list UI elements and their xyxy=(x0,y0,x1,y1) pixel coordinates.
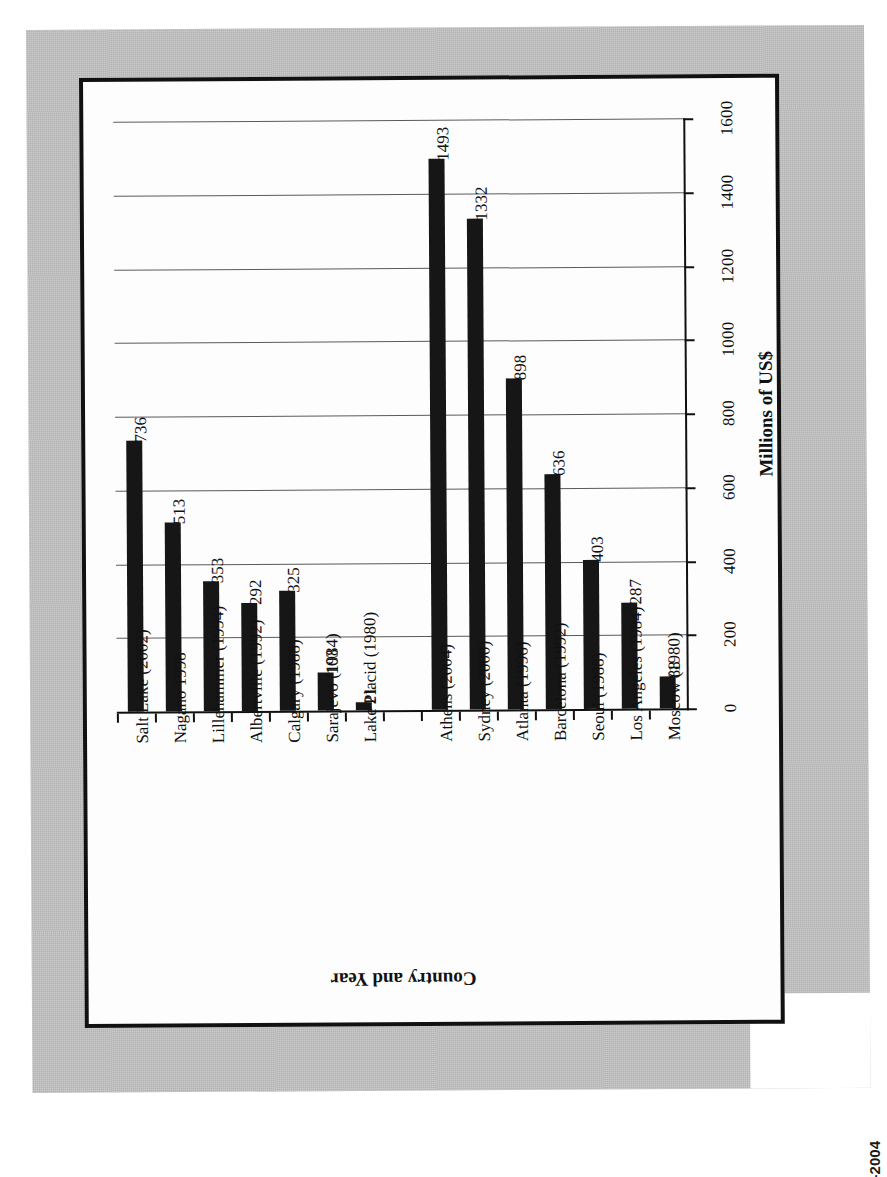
gridline xyxy=(116,635,686,639)
bar-value-label: 898 xyxy=(511,355,531,381)
bar-value-label: 403 xyxy=(588,537,608,563)
category-tick-mark xyxy=(611,711,613,720)
bar-value-label: 1493 xyxy=(433,127,453,161)
gridline xyxy=(113,118,683,122)
category-label: Atlanta (1996) xyxy=(512,642,533,742)
category-tick-mark xyxy=(307,713,309,722)
gridline xyxy=(115,340,685,344)
bar-chart-plot: 02004006008001000120014001600 7365133532… xyxy=(83,78,781,1024)
category-label: Calgary (1988) xyxy=(284,639,305,743)
category-label: Sarajevo (1984) xyxy=(322,633,343,742)
category-label: Athens (2004) xyxy=(436,644,457,742)
bars-group: 7365133532923251032114931332898636403287… xyxy=(83,78,775,82)
bar-value-label: 736 xyxy=(131,417,151,443)
value-tick-label: 1000 xyxy=(718,317,738,361)
category-tick-mark xyxy=(155,714,157,723)
category-tick-mark xyxy=(421,712,423,721)
value-axis-title: Millions of US$ xyxy=(755,329,778,499)
gridline xyxy=(115,413,685,417)
bar xyxy=(466,218,486,709)
value-tick-label: 0 xyxy=(721,686,741,730)
category-label: Lillehammer (1994) xyxy=(208,606,229,743)
gridline xyxy=(114,266,684,270)
gridline xyxy=(116,487,686,491)
category-tick-mark xyxy=(573,711,575,720)
category-label: Moscow (1980) xyxy=(664,632,685,740)
value-tick-label: 1600 xyxy=(717,96,737,140)
category-tick-mark xyxy=(383,712,385,721)
category-tick-mark xyxy=(497,711,499,720)
category-tick-mark xyxy=(649,711,651,720)
category-tick-mark xyxy=(269,713,271,722)
value-tick-label: 600 xyxy=(719,465,739,509)
category-tick-mark xyxy=(535,711,537,720)
category-tick-mark xyxy=(345,712,347,721)
category-tick-mark xyxy=(231,713,233,722)
bar xyxy=(428,159,448,710)
gridline xyxy=(114,192,684,196)
value-tick-label: 200 xyxy=(720,612,740,656)
category-label: Albertville (1992) xyxy=(246,620,267,743)
category-tick-mark xyxy=(117,714,119,723)
category-label: Lake Placid (1980) xyxy=(360,612,381,742)
bar-value-label: 287 xyxy=(626,579,646,605)
category-label: Seoul (1988) xyxy=(589,652,610,740)
chart-panel: 02004006008001000120014001600 7365133532… xyxy=(79,74,785,1028)
category-label: Nagano 1998 xyxy=(171,652,192,743)
bar-value-label: 636 xyxy=(549,451,569,477)
value-tick-label: 1200 xyxy=(718,243,738,287)
category-tick-mark xyxy=(459,712,461,721)
category-label: Salt Lake (2002) xyxy=(132,629,153,743)
bar-value-label: 353 xyxy=(208,557,228,583)
value-tick-label: 800 xyxy=(719,391,739,435)
category-label: Los Angeles (1984) xyxy=(626,606,647,740)
bar-value-label: 292 xyxy=(246,580,266,606)
category-axis-title: Country and Year xyxy=(313,967,493,990)
category-label: Sydney (2000) xyxy=(474,641,495,742)
value-axis-ticks: 02004006008001000120014001600 xyxy=(83,78,775,82)
bar-value-label: 325 xyxy=(284,567,304,593)
bar-value-label: 1332 xyxy=(472,186,492,220)
category-labels-group: Salt Lake (2002)Nagano 1998Lillehammer (… xyxy=(83,78,775,82)
bar-value-label: 513 xyxy=(170,499,190,525)
value-tick-label: 400 xyxy=(720,538,740,582)
gridlines-group xyxy=(83,78,775,82)
category-label: Barcelona (1992) xyxy=(550,623,571,742)
value-tick-label: 1400 xyxy=(718,170,738,214)
category-tick-mark xyxy=(193,713,195,722)
